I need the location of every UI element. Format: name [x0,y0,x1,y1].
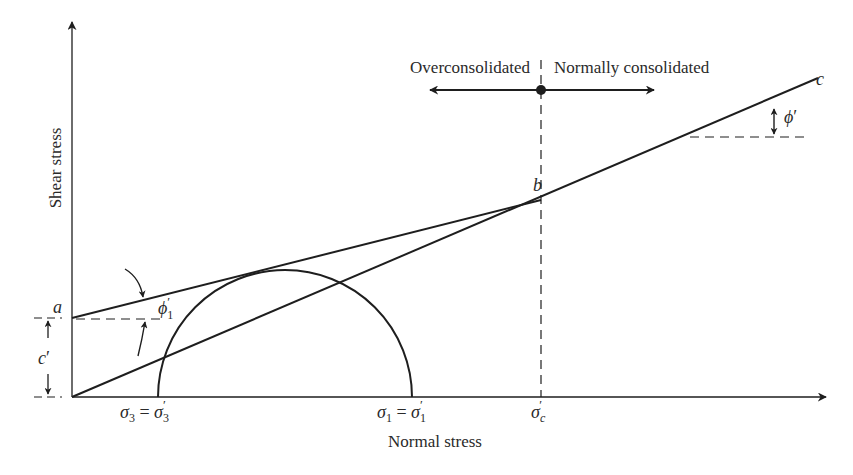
mohr-coulomb-diagram: Shear stress Normal stress Overconsolida… [0,0,853,475]
point-a-label: a [53,297,62,317]
normally-consolidated-label: Normally consolidated [554,58,710,77]
point-b-label: b [533,175,542,195]
envelope-overconsolidated [72,200,541,318]
phi-label: ϕ′ [784,107,797,127]
phi1-upper-arrow [125,269,143,297]
sigma1-label: σ1 = σ1′ [377,397,426,425]
cohesion-label: c′ [38,348,50,368]
mohr-circle [158,270,412,397]
sigma3-label: σ3 = σ3′ [120,397,169,425]
envelope-normally-consolidated [72,78,818,397]
phi1-label: ϕ1′ [158,294,173,322]
point-c-label: c [816,69,824,89]
x-axis-label: Normal stress [388,432,482,451]
phi1-lower-arrow [138,322,145,356]
preconsolidation-dot [536,85,546,95]
sigma-c-label: σc′ [531,397,546,425]
overconsolidated-label: Overconsolidated [410,58,530,77]
y-axis-label: Shear stress [46,128,65,209]
